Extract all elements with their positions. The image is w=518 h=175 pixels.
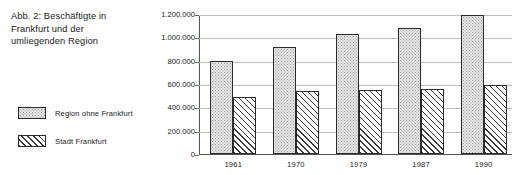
y-axis-tick	[195, 108, 199, 109]
y-axis-tick	[195, 15, 199, 16]
y-axis-tick-label: 600.000	[150, 81, 195, 89]
legend-label-stadt: Stadt Frankfurt	[55, 137, 107, 146]
legend-item-region: Region ohne Frankfurt	[18, 106, 168, 120]
x-axis-tick-label: 1979	[336, 160, 382, 169]
legend-item-stadt: Stadt Frankfurt	[18, 134, 168, 148]
x-axis-tick-label: 1990	[461, 160, 507, 169]
caption-line-1: Abb. 2: Beschäftigte in	[11, 10, 151, 23]
caption-line-2: Frankfurt und der	[11, 23, 151, 36]
y-axis-tick	[195, 85, 199, 86]
y-axis-tick	[195, 38, 199, 39]
y-axis-tick	[195, 62, 199, 63]
bar-stadt-frankfurt	[484, 85, 507, 154]
bar-group: 1990	[461, 15, 507, 154]
x-axis-tick-label: 1970	[273, 160, 319, 169]
caption-line-3: umliegenden Region	[11, 35, 151, 48]
bar-region-ohne-frankfurt	[336, 34, 359, 154]
bar-group: 1987	[398, 15, 444, 154]
y-axis-tick-label: 200.000	[150, 128, 195, 136]
bar-group: 1970	[273, 15, 319, 154]
bar-region-ohne-frankfurt	[210, 61, 233, 154]
y-axis-tick	[195, 155, 199, 156]
bar-region-ohne-frankfurt	[461, 15, 484, 154]
legend-label-region: Region ohne Frankfurt	[55, 109, 133, 118]
bar-stadt-frankfurt	[296, 91, 319, 154]
plot-area: 0200.000400.000600.000800.0001.000.0001.…	[199, 15, 512, 155]
legend-swatch-stadt-icon	[18, 135, 46, 147]
bar-group: 1979	[336, 15, 382, 154]
x-axis-tick-label: 1987	[398, 160, 444, 169]
chart-legend: Region ohne Frankfurt Stadt Frankfurt	[18, 106, 168, 162]
figure-caption: Abb. 2: Beschäftigte in Frankfurt und de…	[11, 10, 151, 48]
bar-region-ohne-frankfurt	[398, 28, 421, 154]
y-axis-tick-label: 800.000	[150, 58, 195, 66]
y-axis-tick-label: 1.200.000	[150, 11, 195, 19]
legend-swatch-region-icon	[18, 107, 46, 119]
y-axis-tick	[195, 132, 199, 133]
y-axis-tick-label: 0	[150, 151, 195, 159]
y-axis-tick-label: 400.000	[150, 104, 195, 112]
bar-stadt-frankfurt	[233, 97, 256, 154]
bar-stadt-frankfurt	[359, 90, 382, 154]
x-axis-line	[199, 154, 512, 155]
bar-stadt-frankfurt	[421, 89, 444, 154]
y-axis-tick-label: 1.000.000	[150, 34, 195, 42]
y-axis-tick-labels: 0200.000400.000600.000800.0001.000.0001.…	[150, 15, 195, 155]
bar-region-ohne-frankfurt	[273, 47, 296, 154]
bar-group: 1961	[210, 15, 256, 154]
x-axis-tick-label: 1961	[210, 160, 256, 169]
figure-container: Abb. 2: Beschäftigte in Frankfurt und de…	[0, 0, 518, 175]
